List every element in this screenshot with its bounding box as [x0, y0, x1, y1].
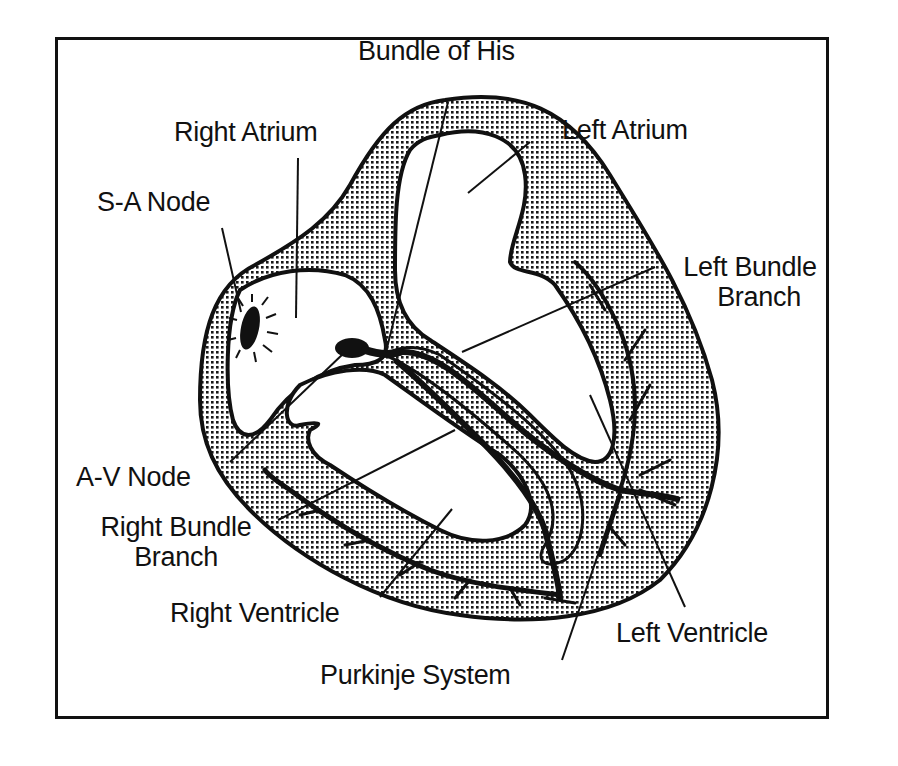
label-av-node: A-V Node	[76, 462, 191, 492]
label-purkinje-system: Purkinje System	[320, 660, 511, 690]
label-left-ventricle: Left Ventricle	[616, 618, 768, 648]
label-sa-node: S-A Node	[97, 187, 210, 217]
label-right-bundle-branch-line1: Right Bundle	[76, 512, 276, 542]
label-right-bundle-branch: Right Bundle Branch	[76, 512, 276, 572]
label-bundle-of-his: Bundle of His	[358, 36, 515, 66]
label-left-bundle-branch-line2: Branch	[660, 282, 840, 312]
label-right-ventricle: Right Ventricle	[170, 598, 340, 628]
label-right-atrium: Right Atrium	[174, 117, 317, 147]
bundle-of-his	[365, 350, 400, 354]
label-left-bundle-branch-line1: Left Bundle	[660, 252, 840, 282]
label-left-bundle-branch: Left Bundle Branch	[660, 252, 840, 312]
label-left-atrium: Left Atrium	[562, 115, 688, 145]
heart-conduction-diagram	[0, 0, 898, 766]
label-right-bundle-branch-line2: Branch	[76, 542, 276, 572]
